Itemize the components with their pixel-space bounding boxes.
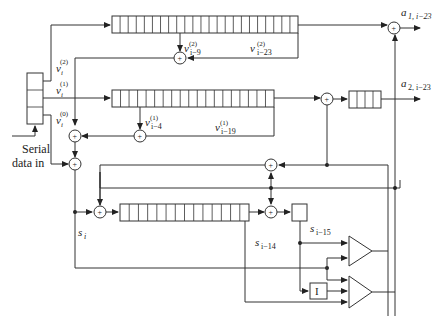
middle-shift-register [112, 90, 274, 107]
serial-input-line [12, 126, 35, 136]
svg-text:i: i [61, 91, 63, 99]
svg-text:(2): (2) [60, 58, 69, 66]
svg-text:i: i [61, 69, 63, 77]
svg-text:+: + [269, 208, 274, 217]
encoder-block-diagram: Serial data in + a 1, i−23 + v (2) i−9 v… [0, 0, 444, 316]
svg-text:s: s [310, 222, 314, 234]
top-shift-register [112, 16, 298, 33]
svg-text:(2): (2) [189, 40, 198, 48]
svg-text:I: I [315, 285, 319, 297]
svg-text:i−4: i−4 [151, 122, 162, 131]
svg-text:i−23: i−23 [257, 48, 272, 57]
output-register [349, 91, 381, 108]
svg-text:i−15: i−15 [316, 228, 331, 237]
svg-text:a: a [401, 77, 407, 89]
svg-text:(1): (1) [220, 119, 229, 127]
majority-gate-2 [349, 276, 372, 308]
svg-text:i: i [61, 121, 63, 129]
svg-text:(2): (2) [257, 40, 266, 48]
output-a2-sub: 2, i−23 [408, 83, 431, 92]
serial-label-1: Serial [22, 142, 51, 156]
svg-text:+: + [138, 132, 143, 141]
svg-text:a: a [401, 6, 407, 18]
svg-text:+: + [73, 132, 78, 141]
svg-text:+: + [98, 208, 103, 217]
output-a1-sub: 1, i−23 [408, 12, 432, 21]
svg-text:s: s [255, 236, 259, 248]
svg-text:+: + [178, 54, 183, 63]
svg-text:+: + [269, 161, 274, 170]
svg-text:s: s [78, 226, 82, 238]
bottom-shift-register [120, 204, 249, 221]
svg-text:i−19: i−19 [221, 127, 236, 136]
svg-text:+: + [325, 95, 330, 104]
input-register [27, 73, 43, 124]
svg-text:(1): (1) [150, 114, 159, 122]
svg-text:+: + [392, 24, 397, 33]
svg-text:v: v [250, 42, 255, 54]
delay-cell-s15 [292, 204, 307, 221]
svg-text:i−14: i−14 [261, 242, 276, 251]
svg-text:(1): (1) [60, 80, 69, 88]
svg-text:+: + [73, 160, 78, 169]
serial-label-2: data in [12, 156, 44, 170]
svg-text:i−9: i−9 [190, 48, 201, 57]
svg-text:i: i [84, 232, 86, 241]
majority-gate-1 [349, 236, 372, 266]
svg-text:(0): (0) [60, 110, 69, 118]
